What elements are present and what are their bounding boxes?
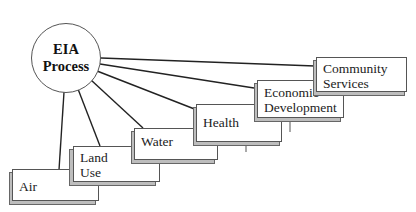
node-label-line2: Development xyxy=(264,100,337,115)
connector-water xyxy=(91,80,143,128)
hub-eia-process: EIA Process xyxy=(31,23,101,93)
connector-economic-development xyxy=(100,64,254,88)
hub-label-line1: EIA xyxy=(43,41,89,58)
connector-community-services xyxy=(101,58,315,66)
connector-air xyxy=(59,92,64,170)
node-label-line1: Community xyxy=(323,61,400,76)
node-label-line2: Use xyxy=(80,165,153,180)
hub-label-line2: Process xyxy=(43,58,89,75)
node-label-line2: Services xyxy=(323,76,400,91)
connector-land-use xyxy=(78,89,100,146)
